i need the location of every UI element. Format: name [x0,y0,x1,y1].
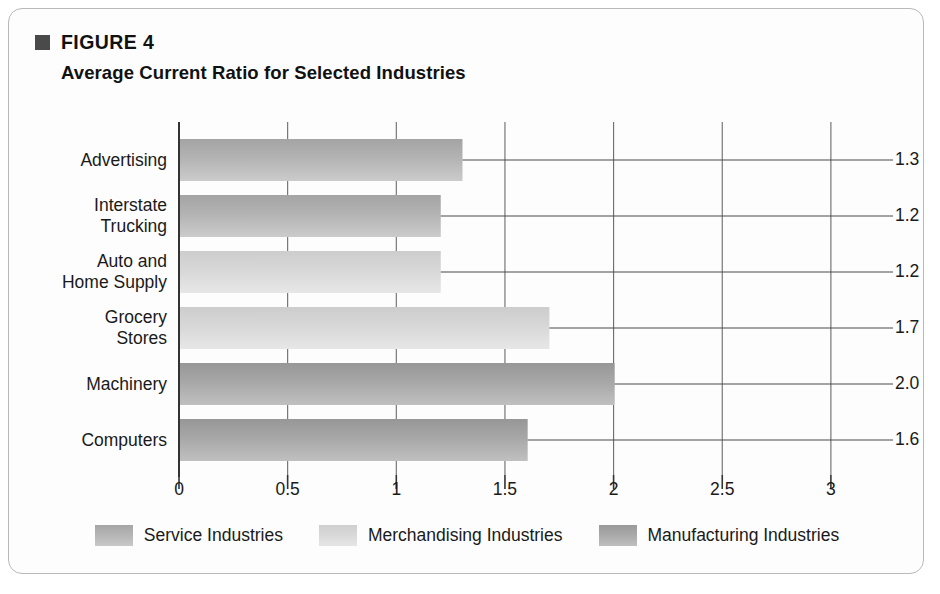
chart-plot-area: AdvertisingInterstateTruckingAuto andHom… [9,9,925,575]
value-label: 1.3 [895,149,919,170]
x-tick-label: 2 [609,479,619,500]
category-label-line: Computers [19,430,167,451]
bar [180,195,441,237]
bar [180,363,615,405]
x-tick-label: 0.5 [275,479,299,500]
legend-label: Service Industries [144,525,283,546]
category-label-line: Machinery [19,374,167,395]
category-label-line: Trucking [19,216,167,237]
category-label: Advertising [19,150,167,171]
category-label-line: Advertising [19,150,167,171]
legend-label: Merchandising Industries [368,525,563,546]
category-label: GroceryStores [19,307,167,349]
category-label-line: Interstate [19,195,167,216]
x-tick-label: 3 [826,479,836,500]
legend-item-service[interactable]: Service Industries [95,525,283,546]
category-label-line: Auto and [19,251,167,272]
value-label: 2.0 [895,373,919,394]
bar [180,419,528,461]
x-tick-label: 1.5 [493,479,517,500]
value-label: 1.7 [895,317,919,338]
legend-item-manufacturing[interactable]: Manufacturing Industries [599,525,840,546]
legend-item-merchandising[interactable]: Merchandising Industries [319,525,563,546]
value-label: 1.2 [895,261,919,282]
bar [180,307,549,349]
value-label: 1.6 [895,429,919,450]
legend-swatch-icon [319,525,357,546]
legend-swatch-icon [95,525,133,546]
bar [180,251,441,293]
legend-label: Manufacturing Industries [648,525,840,546]
bar [180,139,462,181]
category-label: Auto andHome Supply [19,251,167,293]
chart-legend: Service IndustriesMerchandising Industri… [9,525,925,546]
x-tick-label: 1 [391,479,401,500]
category-label: Machinery [19,374,167,395]
value-label: 1.2 [895,205,919,226]
category-label: Computers [19,430,167,451]
category-label-line: Grocery [19,307,167,328]
category-label: InterstateTrucking [19,195,167,237]
legend-swatch-icon [599,525,637,546]
x-tick-label: 2.5 [710,479,734,500]
bars-group [180,139,615,461]
category-label-line: Home Supply [19,272,167,293]
x-tick-label: 0 [174,479,184,500]
figure-frame: FIGURE 4 Average Current Ratio for Selec… [8,8,924,574]
category-label-line: Stores [19,328,167,349]
